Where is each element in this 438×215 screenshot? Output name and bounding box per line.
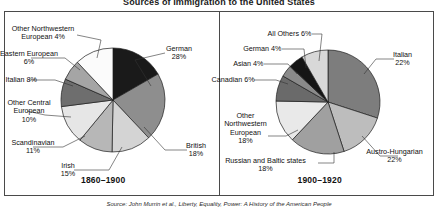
label-russian-baltic-states: Russian and Baltic states 18%	[214, 157, 318, 174]
label-other-northwestern-european: Other Northwestern European 4%	[7, 25, 79, 42]
period-label-right: 1900–1920	[298, 175, 342, 185]
label-german: German 28%	[157, 45, 201, 62]
period-label-left: 1860–1900	[81, 175, 125, 185]
label-german: German 4%	[222, 45, 282, 53]
panel-1900-1920: All Others 6% German 4% Asian 4% Canadia…	[220, 12, 434, 195]
label-irish: Irish 15%	[53, 162, 83, 179]
panels-container: German 28% British 18% Irish 15% Scandin…	[4, 11, 434, 196]
label-asian: Asian 4%	[220, 60, 264, 68]
panel-1860-1900: German 28% British 18% Irish 15% Scandin…	[5, 12, 220, 195]
source-citation: Source: John Murrin et al., Liberty, Equ…	[0, 201, 438, 207]
label-italian: Italian 8%	[0, 76, 37, 84]
label-canadian: Canadian 6%	[212, 76, 254, 84]
label-scandinavian: Scandinavian 11%	[3, 139, 63, 156]
label-other-northwestern-european: Other Northwestern European 18%	[218, 112, 274, 146]
label-british: British 18%	[178, 142, 214, 159]
label-all-others: All Others 6%	[238, 30, 312, 38]
label-eastern-european: Eastern European 6%	[0, 50, 61, 67]
immigration-pie-figure: Sources of Immigration to the United Sta…	[0, 0, 438, 215]
label-italian: Italian 22%	[386, 51, 420, 68]
figure-title: Sources of Immigration to the United Sta…	[0, 0, 438, 7]
label-other-central-european: Other Central European 10%	[1, 99, 57, 124]
label-austro-hungarian: Austro-Hungarian 22%	[360, 148, 430, 165]
